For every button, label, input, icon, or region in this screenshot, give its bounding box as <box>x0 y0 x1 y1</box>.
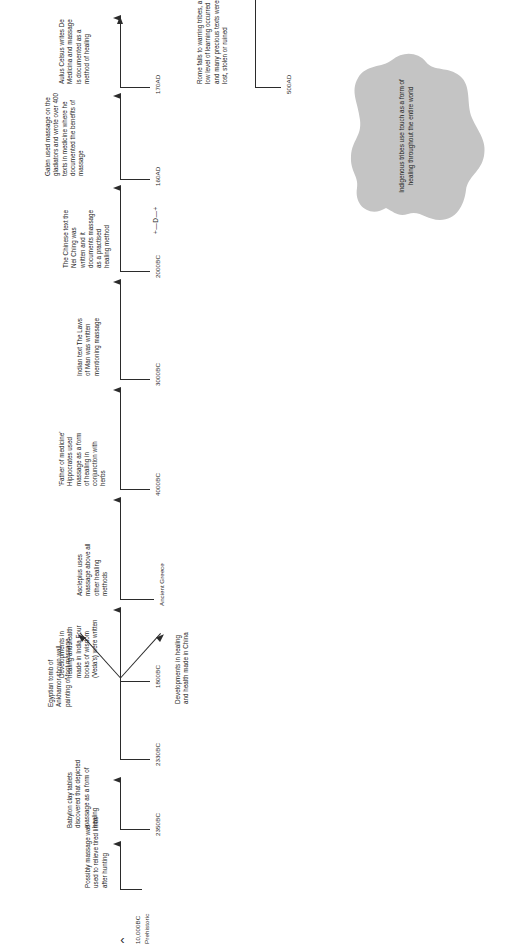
arrowhead-3000bc <box>113 279 121 285</box>
arrowhead-160ad <box>113 93 121 99</box>
axis-1800bc <box>120 610 121 682</box>
event-note-india: Developments in healing and health made … <box>58 618 99 678</box>
event-note-celsus: Aulus Celsus writes De Medicina and mass… <box>58 14 91 84</box>
date-label-2350bc: 2350BC <box>154 813 162 836</box>
axis-160ad <box>120 96 121 180</box>
date-label-1800bc: 1800BC <box>154 665 162 688</box>
date-label-3000bc: 3000BC <box>154 363 162 386</box>
date-label-160ad: 160AD <box>154 167 162 186</box>
date-label-2000bc: 2000BC <box>154 255 162 278</box>
arrowhead-2350bc <box>113 777 121 783</box>
event-note-asclepius: Asclepius uses massage above all other h… <box>76 536 109 596</box>
tick-1800bc <box>120 681 150 682</box>
axis-500ad <box>255 0 256 88</box>
event-note-babylon: Babylon clay tablets discovered that dep… <box>66 758 99 828</box>
tick-2330bc <box>120 759 150 760</box>
event-note-laws-of-man: Indian text The Laws of Man was written … <box>76 316 101 376</box>
tick-ancient-greece <box>120 599 154 600</box>
timeline-diagram: ‹ 10,000BC Prehistoric Possibly massage … <box>0 0 516 950</box>
event-note-nei-ching: The Chinese text the Nei Ching was writt… <box>62 208 112 268</box>
arrowhead-4000bc <box>113 387 121 393</box>
timeline-start-caret-icon: ‹ <box>120 933 124 946</box>
arrowhead-prehistoric <box>113 841 121 847</box>
era-label-prehistoric: Prehistoric <box>143 914 151 944</box>
era-label-ancient-greece: Ancient Greece <box>158 563 165 606</box>
axis-ancient-greece <box>120 500 121 600</box>
event-note-fall-of-rome: Rome falls to warring tribes, a low leve… <box>196 0 229 84</box>
axis-170ad <box>120 18 121 88</box>
tick-3000bc <box>120 379 150 380</box>
bc-ad-transition-marker: +—D—+ <box>152 206 159 234</box>
tick-500ad <box>255 87 281 88</box>
tick-prehistoric <box>120 889 142 890</box>
tick-170ad <box>120 87 150 88</box>
indigenous-tribes-callout-text: Indigenous tribes use touch as a form of… <box>398 76 416 196</box>
arrowhead-china <box>156 632 166 642</box>
arrowhead-1800bc <box>113 607 121 613</box>
axis-2350bc <box>120 780 121 830</box>
event-note-china: Developments in healing and health made … <box>174 628 191 704</box>
tick-160ad <box>120 179 150 180</box>
axis-2000bc <box>120 188 121 272</box>
tick-2350bc <box>120 829 150 830</box>
arrowhead-blob-connector <box>117 16 123 24</box>
date-label-500ad: 500AD <box>285 75 293 94</box>
date-label-10000bc: 10,000BC <box>134 916 142 944</box>
axis-prehistoric <box>120 844 121 890</box>
event-note-hippocrates: 'Father of medicine' Hippocrates used ma… <box>58 426 108 486</box>
arrowhead-2000bc <box>113 185 121 191</box>
axis-4000bc <box>120 390 121 490</box>
axis-3000bc <box>120 282 121 380</box>
tick-4000bc <box>120 489 150 490</box>
date-label-4000bc: 4000BC <box>154 473 162 496</box>
indigenous-tribes-callout: Indigenous tribes use touch as a form of… <box>348 49 488 224</box>
event-note-galen: Galen used massage on the gladiators and… <box>44 92 85 176</box>
date-label-170ad: 170AD <box>154 75 162 94</box>
arrowhead-ancient-greece <box>113 497 121 503</box>
date-label-2330bc: 2330BC <box>154 743 162 766</box>
tick-2000bc <box>120 271 150 272</box>
axis-2330bc-stem <box>120 678 121 760</box>
